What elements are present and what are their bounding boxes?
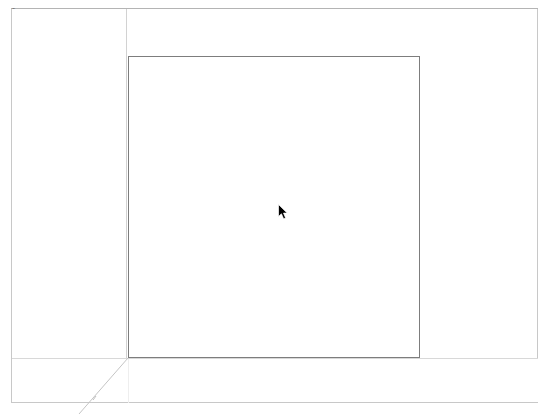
footer-strip [12,359,538,402]
footer-divider [128,359,129,403]
application-canvas: Top [0,0,545,414]
left-panel[interactable] [12,9,126,358]
content-rectangle[interactable] [128,56,420,358]
